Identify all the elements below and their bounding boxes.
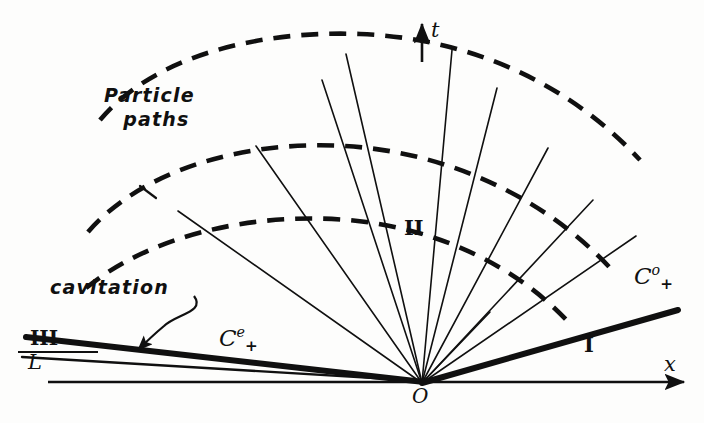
axis-label-x: x [664,352,676,376]
origin-label: O [412,384,428,408]
c-plus-zero-subscript: + [660,275,673,293]
particle-paths-line-1: Particle [104,84,195,108]
figure-canvas: x t O I II III L Co+ Ce+ cavitation Part… [0,0,704,423]
particle-path-arcs [86,34,640,326]
region-label-ii: II [404,215,424,240]
cavitation-annotation: cavitation [50,276,169,298]
c-plus-e-base: C [219,325,237,351]
c-plus-zero-superscript: o [652,262,661,278]
fan-line-7 [422,148,548,383]
boundary-label-l: L [28,350,42,374]
c-plus-zero-base: C [634,263,652,289]
characteristic-label-c-plus-zero: Co+ [634,262,673,293]
fan-line-2 [256,146,422,383]
c-plus-e-superscript: e [237,324,245,340]
cavitation-pointer [138,296,197,350]
characteristic-c-plus-zero [422,310,678,383]
region-label-i: I [584,332,594,357]
region-label-iii: III [30,326,58,350]
particle-path-arc-inner [86,218,572,326]
fan-line-5 [422,50,452,383]
particle-paths-line-2: paths [104,108,195,132]
diagram-svg [0,0,704,423]
characteristic-label-c-plus-e: Ce+ [219,324,258,355]
stray-dash-fragment [140,186,156,198]
c-plus-e-subscript: + [245,337,258,355]
axis-label-t: t [431,18,439,42]
particle-paths-annotation: Particle paths [104,84,195,132]
